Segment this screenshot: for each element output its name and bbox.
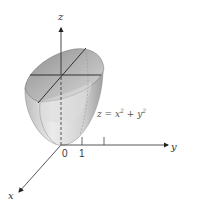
paraboloid-diagram: z y x 0 1 z = x2 + y2 xyxy=(0,0,197,214)
equation-sup-2: 2 xyxy=(141,107,146,114)
y-tick-1-label: 1 xyxy=(79,148,85,159)
x-axis xyxy=(19,145,61,192)
origin-label: 0 xyxy=(62,148,68,159)
x-axis-label: x xyxy=(8,190,14,201)
equation-lhs: z = x xyxy=(96,109,120,119)
equation-mid: + y xyxy=(124,109,143,119)
y-axis-label: y xyxy=(170,141,177,152)
equation-label: z = x2 + y2 xyxy=(96,107,146,119)
z-axis-label: z xyxy=(57,11,64,22)
